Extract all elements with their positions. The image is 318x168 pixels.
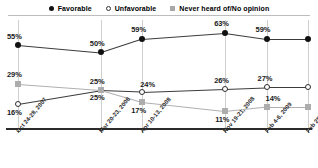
favorability-line-chart: Favorable Unfavorable Never heard of/No …	[0, 0, 318, 168]
data-point-fav	[222, 30, 228, 36]
data-point-never	[222, 108, 228, 114]
data-point-unfav	[305, 84, 311, 90]
filled-square-marker-icon	[170, 6, 175, 11]
legend-item-never-heard: Never heard of/No opinion	[170, 5, 269, 12]
data-point-never	[305, 104, 311, 110]
data-label-unfav: 24%	[140, 80, 155, 89]
legend-label-favorable: Favorable	[58, 5, 92, 12]
data-label-fav: 59%	[131, 25, 146, 34]
data-point-fav	[139, 36, 145, 42]
data-point-unfav	[264, 84, 270, 90]
legend-label-never-heard: Never heard of/No opinion	[179, 5, 269, 12]
legend-item-unfavorable: Unfavorable	[106, 5, 157, 12]
series-line-unfav	[142, 89, 225, 93]
data-label-unfav: 26%	[214, 76, 229, 85]
data-label-fav: 59%	[256, 25, 271, 34]
series-line-fav	[18, 45, 101, 54]
series-line-fav	[267, 39, 308, 40]
filled-circle-marker-icon	[49, 6, 54, 11]
data-point-unfav	[15, 101, 21, 107]
chart-legend: Favorable Unfavorable Never heard of/No …	[0, 2, 318, 15]
data-point-unfav	[139, 89, 145, 95]
data-point-fav	[264, 36, 270, 42]
data-label-never: 17%	[131, 106, 146, 115]
data-label-unfav: 27%	[258, 74, 273, 83]
data-label-never: 29%	[7, 70, 22, 79]
data-label-never: 14%	[266, 94, 281, 103]
data-point-fav	[305, 36, 311, 42]
hollow-circle-marker-icon	[106, 6, 111, 11]
data-label-never: 25%	[90, 93, 105, 102]
data-label-unfav: 25%	[90, 77, 105, 86]
series-line-never	[18, 84, 101, 91]
data-point-fav	[98, 49, 104, 55]
data-point-never	[264, 104, 270, 110]
data-label-fav: 55%	[7, 32, 22, 41]
series-line-fav	[142, 33, 225, 40]
x-axis-tick-labels: Oct 24-28, 2007Mar 20-23, 2008Apr 10-13,…	[0, 130, 318, 168]
data-point-never	[139, 99, 145, 105]
data-point-fav	[15, 42, 21, 48]
data-label-unfav: 16%	[7, 108, 22, 117]
data-label-fav: 50%	[90, 39, 105, 48]
series-line-unfav	[225, 87, 266, 90]
data-label-fav: 63%	[214, 19, 229, 28]
series-line-unfav	[18, 90, 101, 105]
legend-label-unfavorable: Unfavorable	[115, 5, 157, 12]
series-line-fav	[101, 39, 143, 54]
gridline	[101, 20, 102, 128]
data-point-never	[15, 81, 21, 87]
data-point-unfav	[222, 86, 228, 92]
series-line-unfav	[267, 87, 308, 88]
legend-item-favorable: Favorable	[49, 5, 92, 12]
